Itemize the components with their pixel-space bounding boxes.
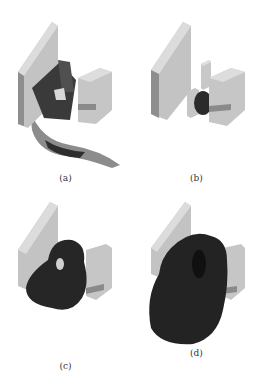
panel-caption: (b) bbox=[131, 173, 262, 183]
render-c-image bbox=[0, 188, 131, 376]
panel-caption: (a) bbox=[0, 173, 131, 183]
panel-a: (a) bbox=[0, 0, 131, 188]
panel-caption: (c) bbox=[0, 361, 131, 371]
panel-c: (c) bbox=[0, 188, 131, 376]
render-a-image bbox=[0, 0, 131, 188]
panel-caption: (d) bbox=[131, 348, 262, 358]
panel-b: (b) bbox=[131, 0, 262, 188]
panel-d: (d) bbox=[131, 188, 262, 376]
render-b-image bbox=[131, 0, 262, 188]
